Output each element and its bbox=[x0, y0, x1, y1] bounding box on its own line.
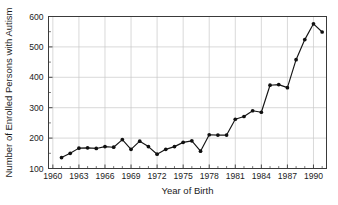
x-tick-label: 1990 bbox=[304, 171, 323, 181]
y-tick-label: 200 bbox=[29, 133, 44, 143]
y-tick-label: 100 bbox=[29, 164, 44, 174]
chart-canvas: 1960196319661969197219751978198119841987… bbox=[0, 0, 338, 205]
x-tick-label: 1975 bbox=[174, 171, 193, 181]
tick-marks bbox=[49, 17, 323, 169]
x-tick-label: 1978 bbox=[200, 171, 219, 181]
x-tick-label: 1981 bbox=[226, 171, 245, 181]
data-line-series bbox=[62, 24, 323, 158]
x-tick-label: 1966 bbox=[95, 171, 114, 181]
y-tick-label: 400 bbox=[29, 72, 44, 82]
y-tick-label: 500 bbox=[29, 42, 44, 52]
y-tick-label: 600 bbox=[29, 12, 44, 22]
x-tick-label: 1960 bbox=[43, 171, 62, 181]
x-tick-label: 1969 bbox=[121, 171, 140, 181]
data-point-markers bbox=[60, 22, 324, 159]
x-axis-tick-labels: 1960196319661969197219751978198119841987… bbox=[43, 171, 323, 181]
x-tick-label: 1984 bbox=[252, 171, 271, 181]
x-tick-label: 1972 bbox=[148, 171, 167, 181]
gridlines bbox=[49, 17, 327, 169]
y-axis-tick-labels: 100200300400500600 bbox=[29, 12, 44, 174]
x-tick-label: 1987 bbox=[278, 171, 297, 181]
autism-enrollment-line-chart: 1960196319661969197219751978198119841987… bbox=[0, 0, 338, 205]
y-axis-title: Number of Enrolled Persons with Autism bbox=[3, 7, 14, 177]
y-tick-label: 300 bbox=[29, 103, 44, 113]
x-axis-title: Year of Birth bbox=[162, 185, 214, 196]
x-tick-label: 1963 bbox=[69, 171, 88, 181]
plot-frame bbox=[49, 17, 327, 169]
